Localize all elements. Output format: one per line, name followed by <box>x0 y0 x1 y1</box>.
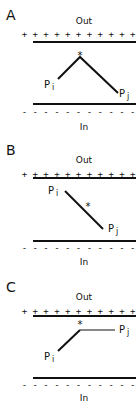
star-marker: * <box>78 319 83 330</box>
point-i-label: Pi <box>48 185 58 198</box>
star-marker: * <box>86 201 91 212</box>
point-j-label: Pj <box>119 324 129 337</box>
panel-b: B Out + + + + + + + + + + + + Pi * Pj - … <box>6 142 139 267</box>
out-label: Out <box>76 16 93 26</box>
panel-c: C Out + + + + + + + + + + + + * Pj Pi - … <box>6 279 139 403</box>
negative-charges: - - - - - - - - - - - - <box>22 380 139 390</box>
point-j-label: Pj <box>108 223 118 236</box>
point-i-label: Pi <box>44 79 54 92</box>
trajectory-line <box>65 191 103 229</box>
trajectory-diagonal <box>58 330 80 351</box>
panel-a: A Out + + + + + + + + + + + + * Pi Pj - … <box>6 7 139 132</box>
in-label: In <box>80 393 88 403</box>
negative-charges: - - - - - - - - - - - - <box>22 107 139 117</box>
positive-charges: + + + + + + + + + + + + <box>22 306 139 316</box>
in-label: In <box>80 122 88 132</box>
positive-charges: + + + + + + + + + + + + <box>22 29 139 39</box>
panel-letter: A <box>6 7 16 23</box>
out-label: Out <box>76 292 93 302</box>
membrane-diagram: A Out + + + + + + + + + + + + * Pi Pj - … <box>0 0 139 406</box>
panel-letter: B <box>6 142 16 158</box>
point-j-label: Pj <box>119 88 129 101</box>
trajectory-line <box>58 57 118 93</box>
out-label: Out <box>76 155 93 165</box>
negative-charges: - - - - - - - - - - - - <box>22 243 139 253</box>
point-i-label: Pi <box>44 351 54 364</box>
panel-letter: C <box>6 279 16 295</box>
in-label: In <box>80 257 88 267</box>
